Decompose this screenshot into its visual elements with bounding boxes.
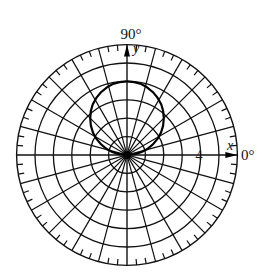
tick-mark — [17, 145, 23, 146]
tick-mark — [56, 235, 60, 240]
tick-mark — [27, 108, 32, 111]
tick-mark — [89, 51, 91, 57]
ring-label-4: 4 — [196, 148, 203, 163]
tick-mark — [56, 70, 60, 75]
tick-mark — [194, 70, 198, 75]
tick-mark — [37, 92, 42, 95]
tick-mark — [222, 199, 227, 202]
tick-mark — [213, 215, 218, 218]
tick-mark — [80, 55, 83, 60]
tick-mark — [37, 215, 42, 218]
tick-mark — [80, 250, 83, 255]
tick-mark — [163, 51, 165, 57]
angle-label-90: 90° — [121, 26, 142, 42]
tick-mark — [163, 253, 165, 259]
tick-mark — [213, 92, 218, 95]
tick-mark — [187, 65, 190, 70]
tick-mark — [207, 84, 212, 88]
tick-mark — [145, 46, 146, 52]
tick-mark — [171, 250, 174, 255]
tick-mark — [222, 108, 227, 111]
tick-mark — [230, 173, 236, 174]
polar-grid-diagram: 90° 0° y x 4 — [0, 0, 263, 272]
tick-mark — [64, 241, 67, 246]
tick-mark — [18, 173, 24, 174]
origin-point — [123, 151, 131, 159]
tick-mark — [42, 222, 47, 226]
tick-mark — [145, 258, 146, 264]
tick-mark — [231, 164, 237, 165]
tick-mark — [225, 191, 231, 193]
tick-mark — [23, 117, 29, 119]
y-axis-label: y — [131, 41, 140, 56]
tick-mark — [194, 235, 198, 240]
tick-mark — [117, 259, 118, 265]
tick-mark — [207, 222, 212, 226]
tick-mark — [230, 136, 236, 137]
tick-mark — [27, 199, 32, 202]
tick-mark — [225, 117, 231, 119]
tick-mark — [64, 65, 67, 70]
y-axis-arrow-icon — [124, 45, 130, 57]
tick-mark — [171, 55, 174, 60]
angle-label-0: 0° — [241, 147, 255, 163]
tick-mark — [18, 136, 24, 137]
tick-mark — [23, 191, 29, 193]
tick-mark — [89, 253, 91, 259]
tick-mark — [187, 241, 190, 246]
tick-mark — [117, 45, 118, 51]
x-axis-label: x — [226, 138, 234, 153]
tick-mark — [136, 259, 137, 265]
tick-mark — [108, 46, 109, 52]
tick-mark — [108, 258, 109, 264]
tick-mark — [17, 164, 23, 165]
tick-mark — [42, 84, 47, 88]
